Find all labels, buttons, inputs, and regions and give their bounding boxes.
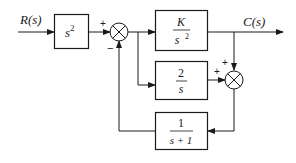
sum2-to-feedback-line	[208, 89, 234, 131]
parallel-block: 2 s	[156, 62, 208, 100]
summing-junction-2	[225, 71, 243, 89]
feedback-to-sum1-line	[119, 41, 155, 131]
parallel-numerator: 2	[178, 66, 184, 80]
sum2-top-plus-sign: +	[222, 57, 228, 68]
forward-denominator: s	[175, 33, 180, 47]
parallel-denominator: s	[179, 82, 184, 96]
summing-junction-1	[110, 23, 128, 41]
output-signal-label: C(s)	[243, 14, 265, 29]
prefilter-expr: s2	[65, 23, 75, 40]
sum2-left-plus-sign: +	[214, 66, 220, 77]
forward-numerator: K	[176, 15, 186, 29]
sum1-minus-sign: −	[107, 42, 113, 54]
sum1-to-parallel-line	[138, 32, 155, 85]
prefilter-block: s2	[55, 15, 89, 49]
feedback-block: 1 s + 1	[156, 113, 208, 150]
forward-den-exponent: 2	[185, 32, 189, 41]
sum1-plus-sign: +	[100, 18, 106, 29]
forward-block: K s 2	[156, 11, 208, 51]
feedback-numerator: 1	[178, 116, 184, 130]
feedback-denominator: s + 1	[170, 134, 193, 146]
input-signal-label: R(s)	[19, 12, 42, 27]
block-diagram: R(s) s2 + − K s 2 C(s) 2 s	[0, 0, 296, 163]
